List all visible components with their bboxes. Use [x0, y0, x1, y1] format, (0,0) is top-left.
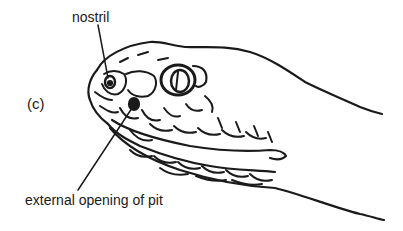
jaw-scales — [130, 150, 272, 185]
pit-opening — [129, 98, 139, 110]
nostril-label: nostril — [72, 9, 109, 25]
panel-label: (c) — [27, 96, 45, 112]
pit-label: external opening of pit — [25, 192, 163, 208]
head-outline-snout — [88, 70, 275, 172]
eye — [161, 65, 206, 95]
nostril-pointer — [98, 25, 108, 78]
nostril-marker — [105, 76, 115, 88]
